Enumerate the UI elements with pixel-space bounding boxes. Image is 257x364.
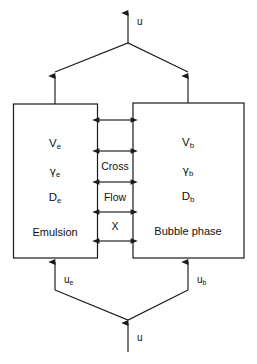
bubble-volume-symbol: V [182,136,190,148]
emulsion-dispersion-label: De [49,192,62,204]
emulsion-dispersion-subscript: e [57,196,61,205]
bubble-inlet-label: ub [197,275,206,285]
bubble-gamma-label: γb [183,165,194,177]
emulsion-volume-symbol: V [49,137,57,149]
emulsion-inlet-symbol: u [64,274,70,285]
emulsion-gamma-symbol: γ [50,165,57,178]
emulsion-inlet-label: ue [64,275,73,285]
bottom-junction-lines [55,290,188,320]
bubble-volume-subscript: b [190,141,194,150]
emulsion-volume-label: Ve [49,138,61,150]
emulsion-volume-subscript: e [57,142,61,151]
top-junction-lines [55,43,188,72]
diagram-canvas [0,0,257,364]
cross-flow-label-line3: X [111,221,118,232]
bubble-gamma-subscript: b [189,169,193,178]
emulsion-phase-label: Emulsion [32,227,77,238]
bottom-inlet-label: u [137,333,143,343]
emulsion-gamma-subscript: e [56,170,60,179]
bubble-inlet-subscript: b [203,279,207,286]
bubble-volume-label: Vb [182,137,194,149]
bubble-dispersion-subscript: b [190,195,194,204]
cross-flow-label-line2: Flow [104,192,126,203]
cross-flow-label-line1: Cross [101,161,128,172]
bubble-inlet-symbol: u [197,274,203,285]
emulsion-inlet-subscript: e [70,279,74,286]
emulsion-gamma-label: γe [50,166,61,178]
bubble-gamma-symbol: γ [183,164,190,177]
bubble-phase-label: Bubble phase [154,226,221,237]
fluidized-bed-diagram: u Ve γe De Emulsion Vb γb Db Bubble phas… [0,0,257,364]
bubble-dispersion-label: Db [182,191,195,203]
top-outlet-label: u [137,17,143,27]
